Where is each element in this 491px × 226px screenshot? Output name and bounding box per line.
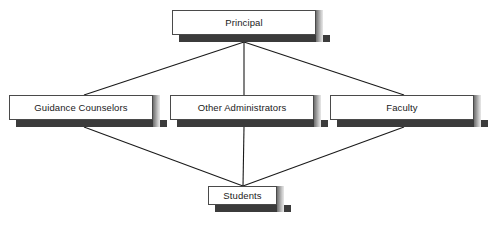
node-guidance-counselors[interactable]: Guidance Counselors [9, 95, 160, 127]
node-extrusion-right [314, 95, 321, 127]
connector-principal-to-guidance [84, 42, 244, 95]
node-label: Faculty [386, 103, 417, 113]
node-label: Principal [225, 18, 262, 28]
node-faculty[interactable]: Faculty [330, 95, 481, 127]
node-other-administrators[interactable]: Other Administrators [170, 95, 321, 127]
node-label: Guidance Counselors [34, 103, 127, 113]
connector-other_admin-to-students [243, 127, 244, 186]
node-face: Other Administrators [170, 95, 314, 120]
node-extrusion-bottom [337, 120, 488, 127]
node-extrusion-right [277, 186, 284, 212]
node-face: Guidance Counselors [9, 95, 153, 120]
node-face: Principal [172, 10, 316, 35]
connector-principal-to-faculty [244, 42, 404, 95]
node-extrusion-bottom [16, 120, 167, 127]
node-extrusion-right [316, 10, 323, 42]
org-chart-diagram: Principal Guidance Counselors Other Admi… [0, 0, 491, 226]
node-extrusion-right [153, 95, 160, 127]
node-principal[interactable]: Principal [172, 10, 323, 42]
node-face: Faculty [330, 95, 474, 120]
node-face: Students [208, 186, 277, 205]
node-students[interactable]: Students [208, 186, 284, 212]
node-extrusion-right [474, 95, 481, 127]
node-label: Other Administrators [198, 103, 287, 113]
node-extrusion-bottom [177, 120, 328, 127]
connector-faculty-to-students [243, 127, 404, 186]
connector-guidance-to-students [84, 127, 243, 186]
node-extrusion-bottom [179, 35, 330, 42]
node-label: Students [223, 191, 261, 201]
